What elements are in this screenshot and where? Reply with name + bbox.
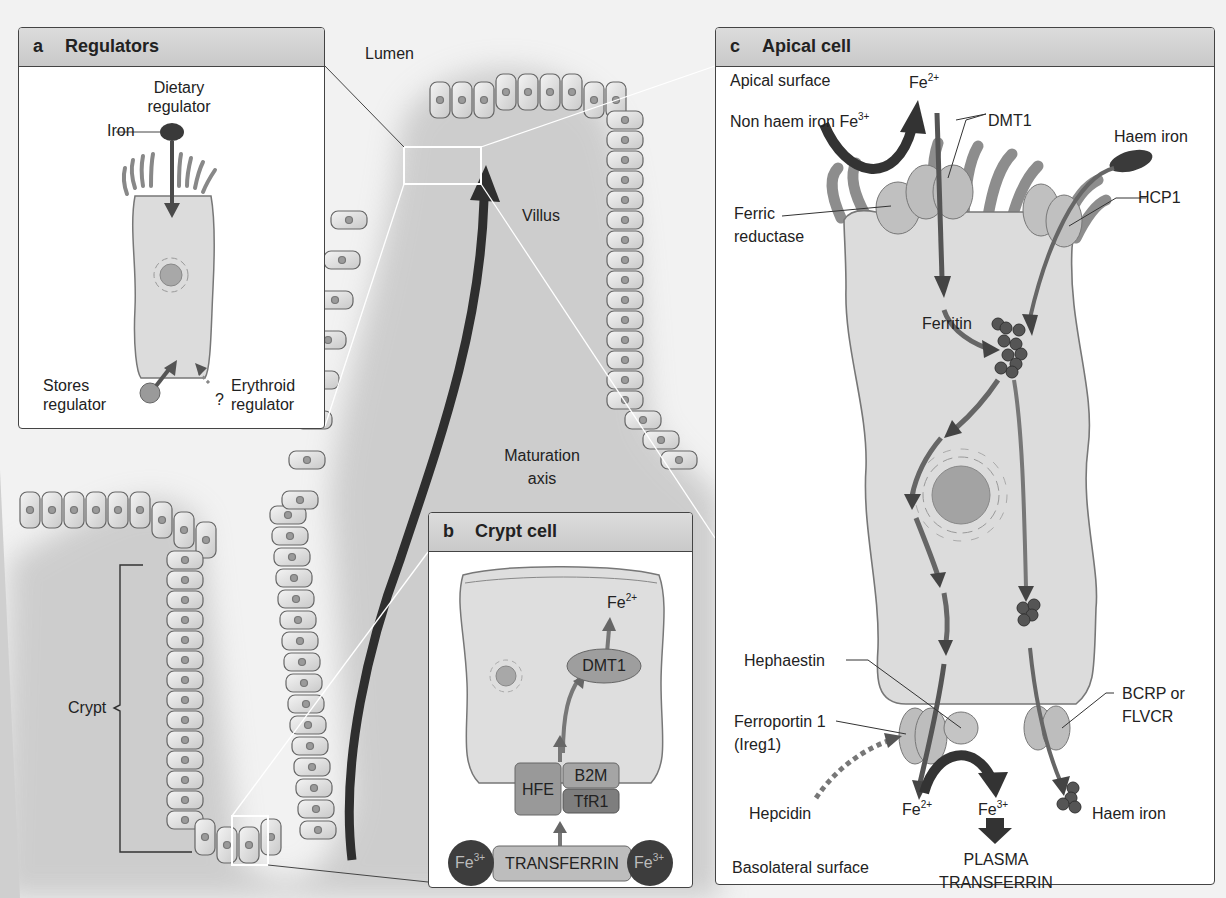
fe3-bottom-label: Fe3+ (978, 800, 1008, 819)
bcrp-flvcr-label: BCRP or FLVCR (1122, 684, 1185, 726)
regulator-cell (133, 196, 215, 378)
haem-iron-molecule (1107, 146, 1155, 177)
hephaestin-label: Hephaestin (744, 651, 825, 670)
crypt-cell-illustration (429, 513, 694, 889)
apical-cell-body (844, 211, 1097, 704)
dmt1-label: DMT1 (567, 656, 641, 675)
nucleus (160, 264, 182, 286)
panel-a-regulators: a Regulators (18, 27, 325, 429)
iron-absorption-figure: Lumen Villus Maturation axis Crypt a Reg… (0, 0, 1226, 898)
non-haem-iron-label: Non haem iron Fe3+ (730, 112, 869, 131)
apical-surface-label: Apical surface (730, 71, 831, 90)
stores-regulator-label: Stores regulator (43, 376, 106, 414)
transferrin-label: TRANSFERRIN (493, 854, 631, 873)
panel-c-apical-cell: c Apical cell (715, 27, 1215, 885)
iron-ball (160, 123, 184, 141)
basolateral-surface-label: Basolateral surface (732, 858, 869, 877)
ferritin-label: Ferritin (922, 314, 972, 333)
plasma-transferrin-label: PLASMA TRANSFERRIN (934, 850, 1058, 892)
ferroportin-label: Ferroportin 1 (Ireg1) (734, 712, 826, 754)
iron-label: Iron (107, 121, 135, 140)
fe2-label: Fe2+ (607, 593, 637, 612)
hfe-label: HFE (515, 780, 561, 799)
haem-iron-top-label: Haem iron (1114, 127, 1188, 146)
hcp1-label: HCP1 (1138, 188, 1181, 207)
nucleus (932, 466, 990, 524)
dmt1-label: DMT1 (988, 111, 1032, 130)
fe3-label-right: Fe3+ (634, 853, 664, 872)
b2m-label: B2M (563, 766, 619, 785)
fe2-top-label: Fe2+ (909, 73, 939, 92)
hepcidin-label: Hepcidin (749, 804, 811, 823)
fe3-label-left: Fe3+ (455, 853, 485, 872)
tfr1-label: TfR1 (563, 792, 619, 811)
haem-iron-bottom-label: Haem iron (1092, 804, 1166, 823)
fe2-bottom-label: Fe2+ (902, 800, 932, 819)
question-mark: ? (215, 390, 224, 409)
panel-b-crypt-cell: b Crypt cell (428, 512, 693, 888)
villus-label: Villus (522, 206, 560, 225)
erythroid-regulator-label: Erythroid regulator (231, 376, 295, 414)
dietary-regulator-label: Dietary regulator (139, 78, 219, 116)
ferric-reductase-label: Ferric reductase (734, 204, 804, 246)
lumen-label: Lumen (365, 44, 414, 63)
apical-cell-illustration (716, 28, 1216, 886)
maturation-axis-label: Maturation axis (497, 446, 587, 488)
crypt-label: Crypt (68, 698, 106, 717)
